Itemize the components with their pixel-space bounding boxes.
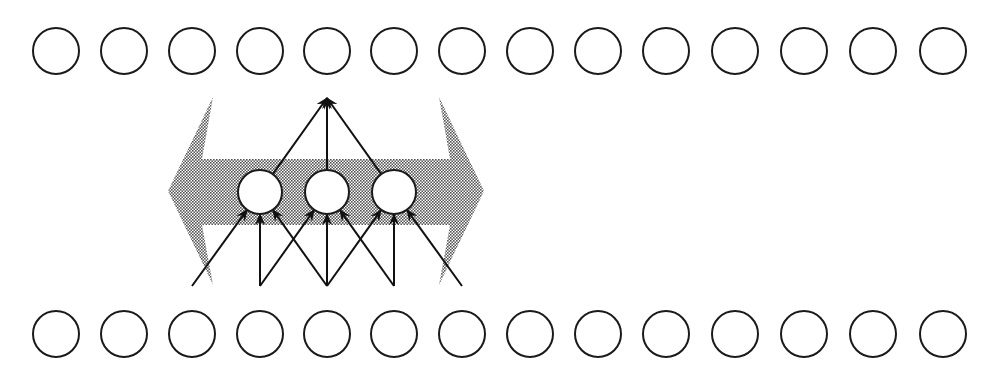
output-unit [781, 28, 827, 74]
network-diagram [0, 0, 999, 387]
output-unit [575, 28, 621, 74]
output-unit [850, 28, 896, 74]
output-unit [237, 28, 283, 74]
input-unit [169, 311, 215, 357]
output-unit [507, 28, 553, 74]
input-layer [33, 311, 966, 357]
input-unit [712, 311, 758, 357]
output-unit [169, 28, 215, 74]
input-unit [781, 311, 827, 357]
input-unit [920, 311, 966, 357]
output-layer [33, 28, 966, 74]
input-unit [643, 311, 689, 357]
output-unit [33, 28, 79, 74]
input-unit [101, 311, 147, 357]
output-unit [101, 28, 147, 74]
input-unit [507, 311, 553, 357]
input-unit [850, 311, 896, 357]
input-unit [371, 311, 417, 357]
hidden-unit [238, 170, 282, 214]
output-unit [920, 28, 966, 74]
hidden-layer [238, 170, 416, 214]
output-unit [439, 28, 485, 74]
output-unit [371, 28, 417, 74]
input-unit [575, 311, 621, 357]
input-unit [304, 311, 350, 357]
output-unit [304, 28, 350, 74]
input-unit [237, 311, 283, 357]
hidden-unit [305, 170, 349, 214]
input-unit [439, 311, 485, 357]
output-unit [712, 28, 758, 74]
output-unit [643, 28, 689, 74]
hidden-unit [372, 170, 416, 214]
input-unit [33, 311, 79, 357]
diagram-canvas [0, 0, 999, 387]
